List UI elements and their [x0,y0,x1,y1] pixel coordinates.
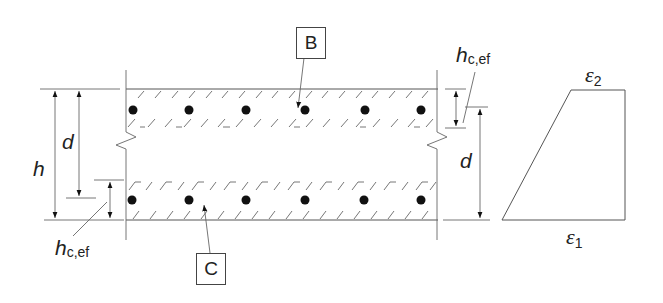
epsilon-1-subscript: 1 [575,235,583,251]
callout-box-c: C [196,253,226,285]
epsilon-1-label: ε1 [566,226,582,248]
callout-b-label: B [305,32,318,54]
callout-c-label: C [204,258,218,280]
left-dimensions [40,89,124,236]
top-tension-zone-hatch [128,91,433,127]
callout-c-leader [204,205,210,253]
epsilon-2-label: ε2 [585,64,601,86]
rebar-dot [360,196,369,205]
rebar-dot [301,196,310,205]
rebar-dot [242,196,251,205]
strain-distribution-trapezoid [502,90,625,220]
hcef-top-main: h [456,43,468,66]
hcef-top-leader [463,72,475,123]
rebar-dot [242,106,251,115]
rebar-dot [361,106,370,115]
hcef-bottom-subscript: c,ef [67,244,90,260]
hcef-bottom-leader [73,202,107,236]
rebar-dot [185,106,194,115]
hcef-top-subscript: c,ef [468,51,491,67]
hcef-bottom-label: hc,ef [55,237,89,258]
section-drawing [0,0,663,303]
hcef-bottom-main: h [55,236,67,259]
diagram-canvas: h d d hc,ef hc,ef B C ε2 ε1 [0,0,663,303]
rebar-dot [185,196,194,205]
h-label: h [33,158,45,179]
rebar-dot [301,106,310,115]
callout-box-b: B [296,27,326,59]
rebar-dot [129,106,138,115]
epsilon-1-main: ε [566,224,575,249]
right-dimensions [443,72,490,220]
bottom-tension-zone-hatch [128,182,437,219]
rebar-dot [417,106,426,115]
bottom-rebars [128,196,426,205]
hcef-top-label: hc,ef [456,44,490,65]
d-left-label: d [62,131,74,152]
slab-outline [116,70,447,240]
callout-b-leader [298,58,304,108]
top-rebars [129,106,426,115]
rebar-dot [128,196,137,205]
epsilon-2-subscript: 2 [594,73,602,89]
d-right-label: d [460,150,472,171]
rebar-dot [417,196,426,205]
epsilon-2-main: ε [585,62,594,87]
